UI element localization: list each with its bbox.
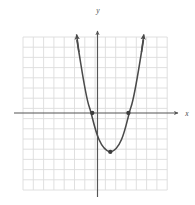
y-axis-label: y xyxy=(95,6,100,15)
graph-figure: y x xyxy=(0,0,195,205)
point-vertex xyxy=(108,150,112,154)
coordinate-plane-svg: y x xyxy=(0,0,195,205)
x-axis-label: x xyxy=(184,109,189,118)
point-left-root xyxy=(90,111,94,115)
point-right-root xyxy=(126,111,130,115)
